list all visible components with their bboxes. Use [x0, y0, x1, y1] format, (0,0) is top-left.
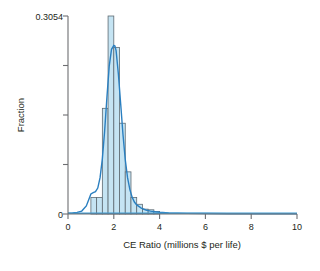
y-axis: 0.3054 0 Fraction	[15, 12, 68, 220]
histogram-bars	[91, 16, 160, 214]
y-tick-label-max: 0.3054	[35, 12, 63, 22]
chart-canvas: 0.3054 0 Fraction 0246810 CE Ratio (mill…	[0, 0, 320, 271]
x-tick-label: 2	[111, 222, 116, 232]
x-axis-title: CE Ratio (millions $ per life)	[123, 239, 241, 250]
x-tick-label: 10	[292, 222, 302, 232]
x-tick-label: 8	[249, 222, 254, 232]
x-axis-ticks	[68, 214, 297, 219]
y-axis-ticks	[63, 16, 68, 214]
x-axis-tick-labels: 0246810	[65, 222, 302, 232]
x-tick-label: 4	[157, 222, 162, 232]
x-tick-label: 0	[65, 222, 70, 232]
histogram-bar	[97, 197, 103, 214]
x-axis: 0246810 CE Ratio (millions $ per life)	[65, 214, 302, 250]
y-tick-label-min: 0	[58, 210, 63, 220]
y-axis-title: Fraction	[15, 98, 26, 132]
histogram-bar	[91, 197, 97, 214]
histogram-bar	[120, 123, 126, 214]
x-tick-label: 6	[203, 222, 208, 232]
histogram-figure: 0.3054 0 Fraction 0246810 CE Ratio (mill…	[0, 0, 320, 271]
